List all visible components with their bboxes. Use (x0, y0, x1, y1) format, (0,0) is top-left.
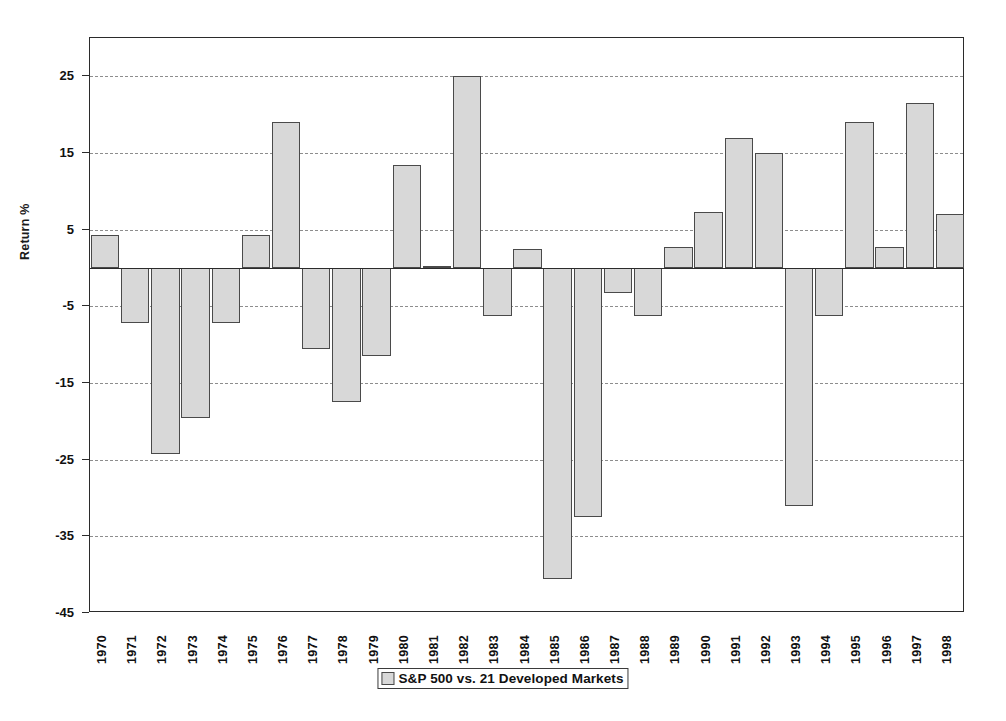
x-axis-tick-label: 1985 (548, 618, 566, 664)
x-axis-tick-label: 1993 (789, 618, 807, 664)
x-axis-tick-label: 1981 (427, 618, 445, 664)
y-axis-tick-label: -45 (0, 605, 74, 620)
bar (755, 153, 783, 268)
x-axis-tick-label: 1995 (849, 618, 867, 664)
x-axis-tick-label: 1980 (397, 618, 415, 664)
y-axis-tick-mark (82, 152, 89, 153)
y-axis-tick-label: -35 (0, 528, 74, 543)
y-axis-tick-mark (82, 75, 89, 76)
x-axis-tick-label: 1994 (819, 618, 837, 664)
y-axis-tick-label: -25 (0, 451, 74, 466)
bar (574, 268, 602, 517)
bar (815, 268, 843, 316)
bar (875, 247, 903, 268)
bar (936, 214, 964, 268)
x-axis-tick-label: 1998 (940, 618, 958, 664)
x-axis-tick-label: 1986 (578, 618, 596, 664)
legend-label: S&P 500 vs. 21 Developed Markets (398, 671, 623, 686)
x-axis-tick-label: 1972 (155, 618, 173, 664)
x-axis-tick-label: 1977 (306, 618, 324, 664)
bar (906, 103, 934, 268)
x-axis-tick-label: 1990 (699, 618, 717, 664)
x-axis-tick-label: 1970 (95, 618, 113, 664)
bar (242, 235, 270, 268)
plot-area (89, 37, 964, 612)
x-axis-tick-label: 1973 (186, 618, 204, 664)
gridline (90, 230, 963, 231)
bar (453, 76, 481, 268)
gridline (90, 153, 963, 154)
bar (604, 268, 632, 293)
x-axis-tick-label: 1971 (125, 618, 143, 664)
x-axis-tick-label: 1976 (276, 618, 294, 664)
bar (725, 138, 753, 268)
bar (302, 268, 330, 349)
x-axis-tick-label: 1997 (910, 618, 928, 664)
bar (332, 268, 360, 402)
bar (634, 268, 662, 316)
x-axis-tick-label: 1992 (759, 618, 777, 664)
bar (513, 249, 541, 268)
x-axis-tick-label: 1996 (880, 618, 898, 664)
gridline (90, 536, 963, 537)
bar (362, 268, 390, 356)
x-axis-tick-label: 1984 (518, 618, 536, 664)
y-axis-tick-label: 5 (0, 221, 74, 236)
y-axis-title: Return % (18, 120, 38, 260)
zero-baseline (90, 268, 963, 269)
bar (181, 268, 209, 418)
x-axis-tick-label: 1988 (638, 618, 656, 664)
chart-page: Return % 25155-5-15-25-35-45 19701971197… (0, 0, 1006, 721)
bar (543, 268, 571, 579)
x-axis-tick-label: 1978 (336, 618, 354, 664)
x-axis-tick-label: 1983 (487, 618, 505, 664)
y-axis-tick-label: -15 (0, 375, 74, 390)
y-axis-tick-label: 15 (0, 145, 74, 160)
x-axis-tick-label: 1987 (608, 618, 626, 664)
bar (694, 212, 722, 268)
bar (121, 268, 149, 323)
bar (483, 268, 511, 316)
y-axis-tick-mark (82, 305, 89, 306)
gridline (90, 76, 963, 77)
x-axis-tick-label: 1979 (367, 618, 385, 664)
y-axis-tick-mark (82, 612, 89, 613)
x-axis-tick-label: 1975 (246, 618, 264, 664)
gridline (90, 460, 963, 461)
gridline (90, 383, 963, 384)
bar (664, 247, 692, 268)
bar (91, 235, 119, 268)
y-axis-tick-mark (82, 382, 89, 383)
x-axis-tick-label: 1982 (457, 618, 475, 664)
y-axis-tick-mark (82, 459, 89, 460)
y-axis-tick-label: 25 (0, 68, 74, 83)
chart-legend: S&P 500 vs. 21 Developed Markets (377, 668, 628, 689)
y-axis-tick-label: -5 (0, 298, 74, 313)
bar (212, 268, 240, 323)
x-axis-tick-label: 1991 (729, 618, 747, 664)
bar (845, 122, 873, 268)
bar (272, 122, 300, 268)
y-axis-tick-mark (82, 229, 89, 230)
legend-swatch-icon (381, 672, 394, 685)
y-axis-tick-mark (82, 535, 89, 536)
x-axis-tick-label: 1989 (668, 618, 686, 664)
bar (151, 268, 179, 454)
bar (785, 268, 813, 506)
bar (393, 165, 421, 269)
x-axis-tick-label: 1974 (216, 618, 234, 664)
